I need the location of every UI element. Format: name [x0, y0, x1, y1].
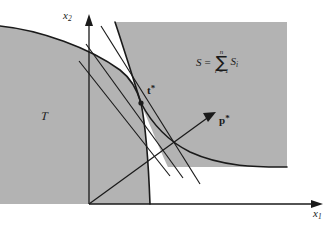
figure-canvas: x2 x1 T t* p* S = n ∑ i = 1 Si — [0, 0, 336, 226]
x-axis-label: x1 — [313, 208, 322, 221]
vector-p-star-label: p* — [219, 114, 230, 126]
sum-lower-limit: i = 1 — [215, 68, 229, 75]
summation-operator: n ∑ i = 1 — [215, 49, 229, 75]
formula-equals: = — [205, 56, 211, 68]
point-t-star-label: t* — [147, 84, 155, 96]
diagram-svg — [0, 0, 336, 226]
point-t-star-marker — [138, 100, 143, 105]
region-T-label: T — [41, 110, 49, 122]
y-axis-label: x2 — [63, 10, 72, 23]
formula-lhs: S — [196, 56, 202, 68]
formula-term: Si — [230, 55, 238, 69]
sum-formula: S = n ∑ i = 1 Si — [196, 49, 238, 75]
y-axis-arrowhead — [85, 14, 93, 26]
